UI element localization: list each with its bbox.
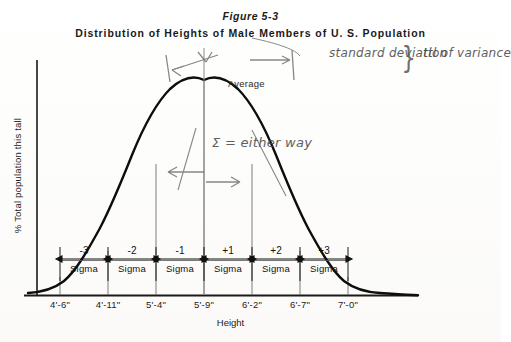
sigma-band-unit: Sigma xyxy=(214,263,242,274)
annotation-total-of-variance: ttl of variance xyxy=(423,46,511,60)
sigma-band-value: +1 xyxy=(222,245,233,256)
annotation-brace: } xyxy=(401,40,415,75)
x-tick-label: 4'-11" xyxy=(96,299,121,310)
x-tick-label: 6'-2" xyxy=(242,299,262,310)
x-tick-label: 5'-9" xyxy=(194,299,214,310)
average-label: Average xyxy=(228,78,265,89)
x-axis-label: Height xyxy=(0,317,501,328)
x-tick-label: 7'-0" xyxy=(338,299,358,310)
sigma-band-separators xyxy=(60,247,348,281)
sigma-band-value: -2 xyxy=(128,245,137,256)
sigma-band-unit: Sigma xyxy=(70,263,98,274)
x-axis-label-text: Height xyxy=(217,317,244,328)
sigma-band-value: +3 xyxy=(318,245,329,256)
sigma-band-value: +2 xyxy=(270,245,281,256)
sigma-band-unit: Sigma xyxy=(166,263,194,274)
x-tick-label: 6'-7" xyxy=(290,299,310,310)
x-tick-label: 5'-4" xyxy=(146,299,166,310)
sigma-band-arrows xyxy=(56,256,352,262)
handwritten-arrows xyxy=(166,38,300,196)
sigma-band-unit: Sigma xyxy=(310,263,338,274)
sigma-band-value: -1 xyxy=(176,245,185,256)
sigma-band-unit: Sigma xyxy=(262,263,290,274)
sigma-band-value: -3 xyxy=(80,245,89,256)
sigma-band-unit: Sigma xyxy=(118,263,146,274)
x-tick-label: 4'-6" xyxy=(50,299,70,310)
annotation-sigma-either-way: Σ = either way xyxy=(212,135,312,150)
y-axis-label: % Total population this tall xyxy=(12,96,23,256)
